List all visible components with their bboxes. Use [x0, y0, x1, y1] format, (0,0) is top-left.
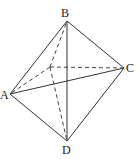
octahedron-diagram: B A C D — [0, 0, 138, 159]
label-C: C — [126, 61, 134, 75]
geometry-figure: B A C D — [0, 0, 138, 159]
label-B: B — [61, 6, 69, 20]
edge-BC — [67, 21, 124, 68]
hidden-edge-OC — [50, 67, 124, 68]
label-A: A — [0, 88, 9, 102]
hidden-edge-OB — [50, 21, 67, 67]
label-D: D — [62, 143, 71, 157]
edge-AD — [10, 94, 67, 141]
hidden-edge-OD — [50, 67, 67, 141]
